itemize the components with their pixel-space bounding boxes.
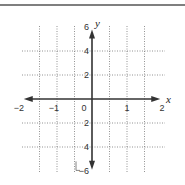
y-tick-label: −6 — [79, 166, 89, 176]
y-tick-label: 6 — [84, 22, 89, 32]
x-tick-label: 0 — [81, 103, 86, 113]
x-axis-left-arrow-icon — [24, 96, 33, 102]
y-axis-label: y — [94, 17, 100, 29]
coordinate-plane: −2−101264224−6 x y — [0, 0, 185, 185]
x-tick-label: −2 — [14, 103, 24, 113]
y-tick-label: 2 — [84, 70, 89, 80]
y-axis-up-arrow-icon — [89, 29, 95, 38]
y-axis-down-arrow-icon — [89, 161, 95, 170]
x-tick-label: −1 — [49, 103, 59, 113]
axes — [24, 29, 161, 170]
x-tick-label: 1 — [124, 103, 129, 113]
y-tick-label: 4 — [84, 46, 89, 56]
y-tick-label: 4 — [84, 142, 89, 152]
x-axis-right-arrow-icon — [151, 96, 160, 102]
x-tick-label: 2 — [159, 103, 164, 113]
y-tick-label: 2 — [84, 118, 89, 128]
x-axis-label: x — [165, 93, 171, 105]
